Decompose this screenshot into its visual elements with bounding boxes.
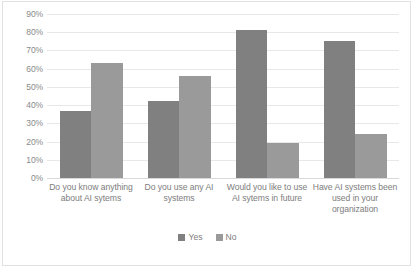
category-label: Do you know anything about AI sytems — [47, 182, 135, 204]
y-axis-tick-label: 60% — [26, 64, 43, 73]
bar-group — [148, 14, 211, 178]
legend-label: Yes — [188, 233, 202, 242]
legend-swatch-icon — [216, 234, 223, 241]
chart-legend: YesNo — [3, 233, 412, 242]
gridline-0% — [47, 178, 399, 179]
bar-chart: 0%10%20%30%40%50%60%70%80%90% Do you kno… — [2, 1, 411, 266]
y-axis-tick-label: 50% — [26, 82, 43, 91]
category-label: Would you like to use AI sytems in futur… — [223, 182, 311, 204]
y-axis-tick-label: 0% — [31, 174, 43, 183]
bar-yes[interactable] — [236, 30, 268, 178]
y-axis: 0%10%20%30%40%50%60%70%80%90% — [7, 2, 47, 192]
bar-no[interactable] — [91, 63, 123, 178]
plot-area — [47, 14, 399, 178]
bar-no[interactable] — [355, 134, 387, 178]
bar-no[interactable] — [267, 143, 299, 178]
legend-swatch-icon — [178, 234, 185, 241]
y-axis-tick-label: 10% — [26, 155, 43, 164]
category-label: Have AI systems been used in your organi… — [311, 182, 399, 216]
legend-item-no[interactable]: No — [216, 233, 237, 242]
y-axis-tick-label: 20% — [26, 137, 43, 146]
bar-yes[interactable] — [148, 101, 180, 178]
y-axis-tick-label: 30% — [26, 119, 43, 128]
bar-group — [236, 14, 299, 178]
x-axis-category-labels: Do you know anything about AI sytemsDo y… — [47, 182, 399, 228]
bar-yes[interactable] — [324, 41, 356, 178]
y-axis-tick-label: 40% — [26, 101, 43, 110]
y-axis-tick-label: 90% — [26, 10, 43, 19]
category-label: Do you use any AI systems — [135, 182, 223, 204]
legend-item-yes[interactable]: Yes — [178, 233, 202, 242]
legend-label: No — [226, 233, 237, 242]
bar-no[interactable] — [179, 76, 211, 178]
y-axis-tick-label: 70% — [26, 46, 43, 55]
y-axis-tick-label: 80% — [26, 28, 43, 37]
bar-yes[interactable] — [60, 111, 92, 178]
bar-group — [60, 14, 123, 178]
bar-group — [324, 14, 387, 178]
